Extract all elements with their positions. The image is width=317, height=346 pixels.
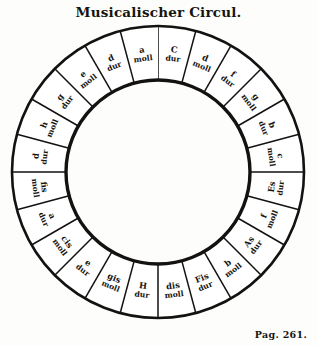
segment-group	[12, 26, 304, 318]
circle-of-fifths-figure: CdurdmollfdurgmollbdurcmollEsdurfmollAsd…	[8, 22, 308, 322]
page-title: Musicalischer Circul.	[0, 4, 317, 20]
page-number: Pag. 261.	[255, 329, 307, 340]
engraving-page: Musicalischer Circul. Cdurdmollfdurgmoll…	[0, 0, 317, 346]
inner-ring-circle	[66, 80, 250, 264]
